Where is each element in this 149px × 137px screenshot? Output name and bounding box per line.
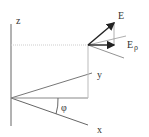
x-axis-label: x — [97, 124, 102, 135]
z-axis-label: z — [16, 15, 21, 26]
vector-e-rho-label: Eρ — [127, 39, 138, 52]
phi-label: φ — [61, 102, 67, 113]
local-phi-direction — [88, 45, 124, 58]
y-axis-label: y — [97, 69, 102, 80]
vector-e-rho-main: E — [127, 39, 133, 50]
x-axis — [11, 98, 88, 125]
vector-e-label: E — [118, 10, 124, 21]
y-axis — [11, 73, 92, 98]
vector-e-rho-subscript: ρ — [134, 43, 138, 52]
diagram-canvas: z y x φ E Eρ — [0, 0, 149, 137]
phi-arc — [56, 98, 58, 114]
